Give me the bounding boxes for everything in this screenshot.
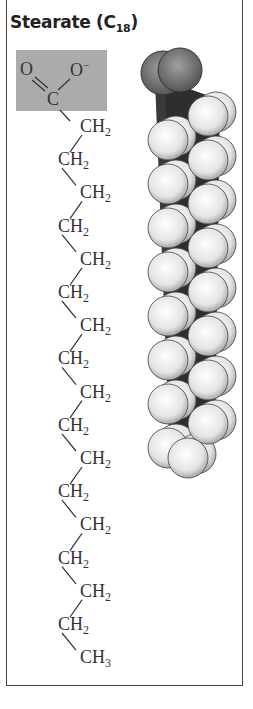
oxygen-single-bond: O− <box>70 60 89 79</box>
oxygen-atom-front <box>158 48 202 92</box>
chain-unit: CH2 <box>80 515 111 536</box>
chain-unit: CH2 <box>80 183 111 204</box>
hydrogen-atoms <box>148 92 236 478</box>
chain-unit: CH2 <box>58 349 89 370</box>
chain-unit: CH2 <box>80 117 111 138</box>
chain-unit: CH2 <box>80 316 111 337</box>
chain-unit: CH2 <box>58 549 89 570</box>
chain-unit: CH2 <box>58 150 89 171</box>
chain-unit: CH3 <box>80 648 111 669</box>
chain-unit: CH2 <box>58 283 89 304</box>
chain-unit: CH2 <box>58 482 89 503</box>
chain-unit: CH2 <box>58 217 89 238</box>
chain-unit: CH2 <box>58 416 89 437</box>
chain-unit: CH2 <box>80 250 111 271</box>
oxygen-double-bond: O <box>20 60 33 78</box>
chain-unit: CH2 <box>58 615 89 636</box>
carboxyl-carbon: C <box>47 90 59 108</box>
space-filling-model <box>130 40 253 480</box>
chain-unit: CH2 <box>80 449 111 470</box>
chain-unit: CH2 <box>80 383 111 404</box>
chain-unit: CH2 <box>80 582 111 603</box>
